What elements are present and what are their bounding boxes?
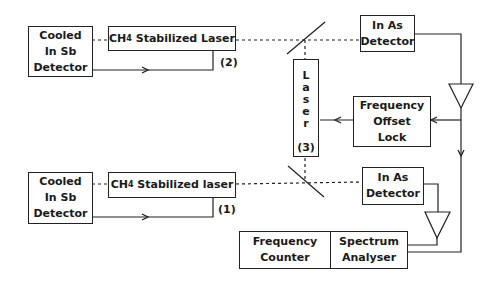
block-text: CH	[111, 177, 128, 193]
block-text: Detector	[33, 206, 87, 222]
block-text: CH	[109, 31, 126, 47]
block-text: Detector	[366, 186, 420, 202]
laser-3: L a s e r (3)	[293, 59, 319, 157]
laser-tag-3: (3)	[297, 142, 315, 154]
block-text: Detector	[360, 34, 414, 50]
block-text: Detector	[33, 60, 87, 76]
block-text: r	[303, 118, 308, 130]
ch4-stabilized-laser-1: CH4 Stabilized laser	[108, 172, 236, 198]
inas-detector-top: In As Detector	[360, 15, 415, 52]
block-text: Cooled	[39, 28, 81, 44]
spectrum-analyser: Spectrum Analyser	[330, 231, 408, 269]
block-text: Spectrum	[339, 234, 399, 250]
block-text: Offset	[373, 114, 411, 130]
block-text: In Sb	[45, 44, 77, 60]
block-text: In As	[372, 18, 403, 34]
block-text: In Sb	[45, 190, 77, 206]
block-text: Counter	[260, 250, 309, 266]
frequency-counter: Frequency Counter	[239, 231, 331, 269]
inas-detector-bottom: In As Detector	[362, 167, 424, 205]
block-text: Cooled	[39, 174, 81, 190]
laser-tag-1: (1)	[218, 203, 236, 216]
ch4-stabilized-laser-2: CH4 Stabilized Laser	[108, 26, 236, 51]
cooled-insb-detector-top: Cooled In Sb Detector	[28, 26, 93, 77]
frequency-offset-lock: Frequency Offset Lock	[353, 96, 431, 147]
block-text: Frequency	[253, 234, 317, 250]
laser-tag-2: (2)	[220, 56, 238, 69]
cooled-insb-detector-bottom: Cooled In Sb Detector	[28, 172, 93, 224]
block-text: Stabilized laser	[134, 177, 234, 193]
block-text: In As	[378, 170, 409, 186]
block-text: Analyser	[342, 250, 396, 266]
block-text: Frequency	[360, 98, 424, 114]
block-text: Lock	[378, 130, 406, 146]
block-text: Stabilized Laser	[132, 31, 235, 47]
